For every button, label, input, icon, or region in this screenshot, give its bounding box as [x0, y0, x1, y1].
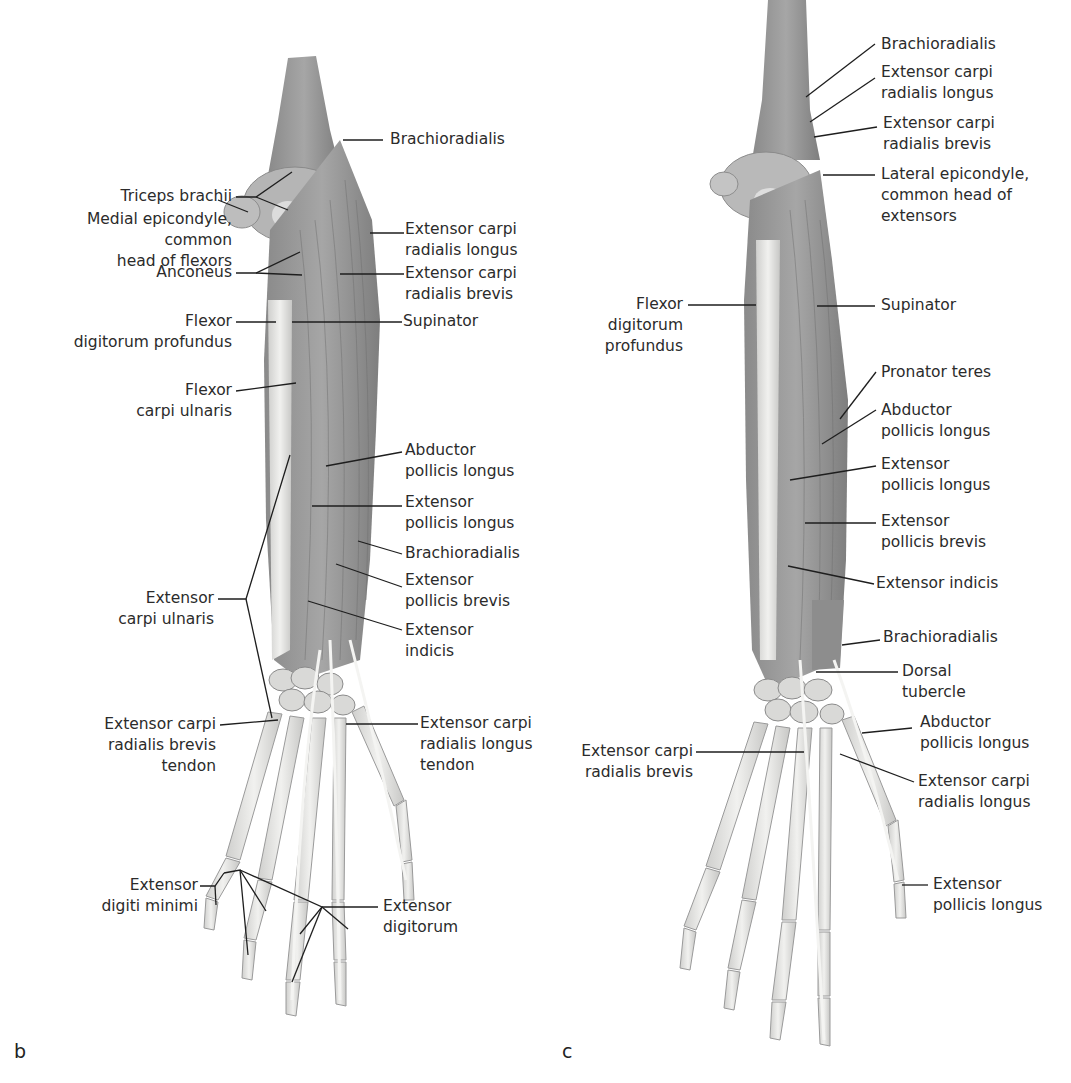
panel-letter-c: c: [562, 1040, 572, 1062]
label-c-supinator: Supinator: [881, 295, 956, 316]
label-c-dorsal-tubercle: Dorsal tubercle: [902, 661, 966, 703]
label-c-ecrb-top: Extensor carpi radialis brevis: [883, 113, 995, 155]
label-ecrb: Extensor carpi radialis brevis: [405, 263, 517, 305]
label-extensor-pollicis-longus: Extensor pollicis longus: [405, 492, 514, 534]
label-ecrl: Extensor carpi radialis longus: [405, 219, 517, 261]
label-c-extensor-pollicis-brevis: Extensor pollicis brevis: [881, 511, 986, 553]
label-extensor-indicis: Extensor indicis: [405, 620, 473, 662]
panel-letter-b: b: [14, 1040, 26, 1062]
label-ecrb-tendon: Extensor carpi radialis brevis tendon: [104, 714, 216, 777]
label-extensor-carpi-ulnaris: Extensor carpi ulnaris: [118, 588, 214, 630]
label-extensor-pollicis-brevis: Extensor pollicis brevis: [405, 570, 510, 612]
panel-b-forearm: [204, 56, 414, 1016]
label-c-brachioradialis-low: Brachioradialis: [883, 627, 998, 648]
label-c-extensor-pollicis-longus: Extensor pollicis longus: [881, 454, 990, 496]
figure-caption-cropped: [0, 1070, 1071, 1083]
label-c-flexor-digitorum-profundus: Flexor digitorum profundus: [605, 294, 683, 357]
label-c-brachioradialis-top: Brachioradialis: [881, 34, 996, 55]
label-c-extensor-indicis: Extensor indicis: [876, 573, 998, 594]
label-c-ecrl-top: Extensor carpi radialis longus: [881, 62, 993, 104]
label-flexor-carpi-ulnaris: Flexor carpi ulnaris: [136, 380, 232, 422]
label-ecrl-tendon: Extensor carpi radialis longus tendon: [420, 713, 532, 776]
label-c-pronator-teres: Pronator teres: [881, 362, 991, 383]
label-triceps-brachii: Triceps brachii: [121, 186, 232, 207]
label-c-ecrl-low: Extensor carpi radialis longus: [918, 771, 1030, 813]
label-supinator: Supinator: [403, 311, 478, 332]
label-abductor-pollicis-longus: Abductor pollicis longus: [405, 440, 514, 482]
label-c-abductor-pollicis-longus: Abductor pollicis longus: [881, 400, 990, 442]
label-brachioradialis-top: Brachioradialis: [390, 129, 505, 150]
label-c-ecrb-low: Extensor carpi radialis brevis: [581, 741, 693, 783]
label-extensor-digitorum: Extensor digitorum: [383, 896, 458, 938]
label-brachioradialis-mid: Brachioradialis: [405, 543, 520, 564]
label-c-abductor-pollicis-longus-low: Abductor pollicis longus: [920, 712, 1029, 754]
label-c-extensor-pollicis-longus-low: Extensor pollicis longus: [933, 874, 1042, 916]
label-anconeus: Anconeus: [156, 262, 232, 283]
label-c-lateral-epicondyle: Lateral epicondyle, common head of exten…: [881, 164, 1029, 227]
label-flexor-digitorum-profundus: Flexor digitorum profundus: [74, 311, 232, 353]
label-extensor-digiti-minimi: Extensor digiti minimi: [101, 875, 198, 917]
